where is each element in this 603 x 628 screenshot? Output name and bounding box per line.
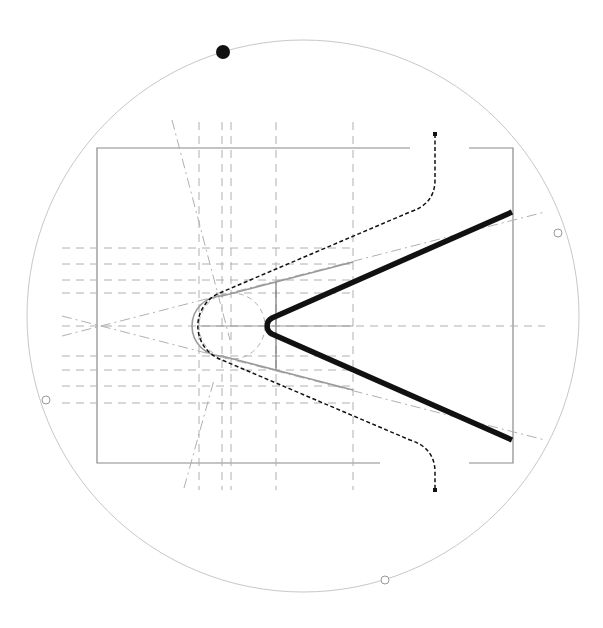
outer-dashed-path [198,134,435,490]
hollow-handle-bottom[interactable] [381,576,389,584]
diag-left-top [172,120,230,340]
frame-right [469,148,513,463]
bounding-circle [27,40,579,592]
dashed-path-endpoint-bottom[interactable] [433,488,437,492]
filled-handle[interactable] [216,45,230,59]
frame-left-top [97,148,410,463]
hollow-handle-left[interactable] [42,396,50,404]
dashed-path-endpoint-top[interactable] [433,132,437,136]
hollow-handle-right[interactable] [554,229,562,237]
diagram-canvas [0,0,603,628]
